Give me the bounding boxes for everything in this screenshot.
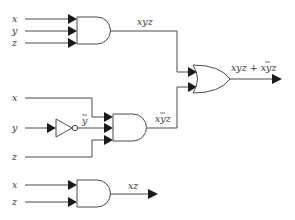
arrow-head-icon <box>68 38 77 48</box>
output-label-xybarz: xyz <box>155 113 172 124</box>
input-label-x: x <box>12 92 18 103</box>
circuit-1: x y z xyz <box>11 13 195 72</box>
input-label-y: y <box>11 122 18 133</box>
circuit-3: x z xz <box>11 179 158 207</box>
wire-xyz <box>110 31 195 72</box>
arrow-head-icon <box>148 189 158 199</box>
input-label-z: z <box>11 37 18 48</box>
or-output-label: xyz + xyz <box>231 62 277 73</box>
input-label-x: x <box>12 13 18 24</box>
arrow-head-icon <box>68 197 77 207</box>
not-gate-icon <box>56 119 72 137</box>
input-label-y: y <box>11 25 18 36</box>
output-label-xz: xz <box>128 180 139 191</box>
input-label-z: z <box>11 151 18 162</box>
or-gate-icon <box>193 65 230 93</box>
arrow-head-icon <box>47 123 56 133</box>
logic-circuit-diagram: x y z xyz x y z y xyz <box>0 0 295 220</box>
arrow-head-icon <box>104 135 113 145</box>
circuit-2: x y z y xyz <box>11 87 195 162</box>
inverter-output-label: y <box>81 115 88 126</box>
arrow-head-icon <box>68 180 77 190</box>
input-label-x: x <box>12 179 18 190</box>
and-gate-icon <box>77 17 111 44</box>
arrow-head-icon <box>68 14 77 24</box>
input-label-z: z <box>11 196 18 207</box>
arrow-head-icon <box>68 26 77 36</box>
or-stage: xyz + xyz <box>188 62 282 93</box>
output-label-xyz: xyz <box>137 16 154 27</box>
and-gate-icon <box>77 180 111 207</box>
arrow-head-icon <box>104 112 113 122</box>
inverter-bubble-icon <box>72 125 77 130</box>
arrow-head-icon <box>272 74 282 84</box>
arrow-head-icon <box>104 123 113 133</box>
and-gate-icon <box>113 114 147 141</box>
wire-z <box>25 140 106 157</box>
wire-x <box>25 98 106 117</box>
